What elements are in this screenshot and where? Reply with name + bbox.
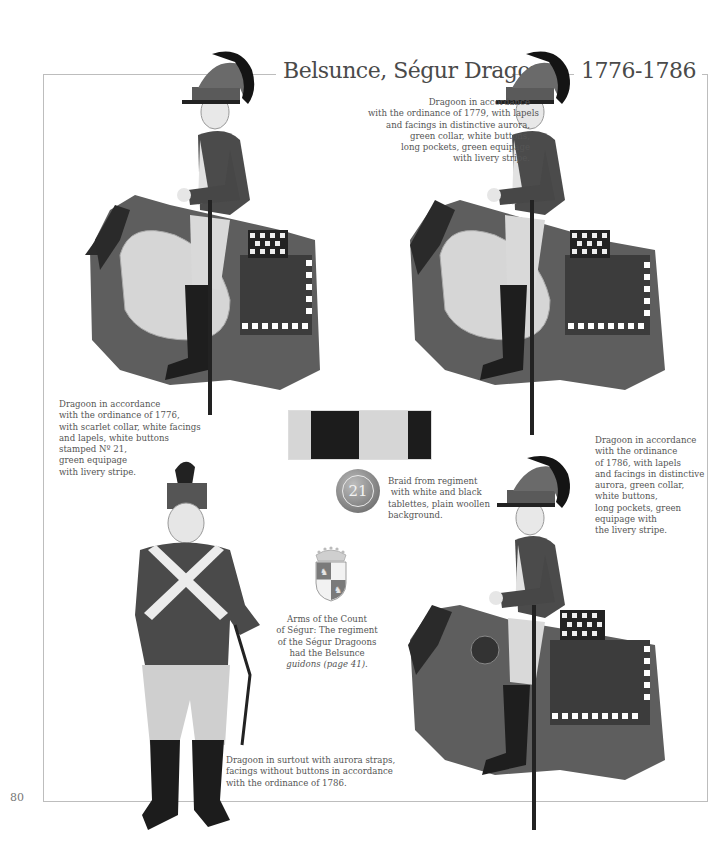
button-number: 21 <box>342 475 374 507</box>
mounted-dragoon-1776-illustration <box>80 40 320 440</box>
braid-segment-white <box>289 411 311 459</box>
braid-segment-black <box>408 411 431 459</box>
page-number: 80 <box>10 791 24 804</box>
caption-braid: Braid from regiment with white and black… <box>388 476 518 521</box>
svg-text:♞: ♞ <box>320 567 328 577</box>
braid-segment-white <box>359 411 408 459</box>
caption-dragoon-1786: Dragoon in accordance with the ordinance… <box>595 435 715 537</box>
regimental-braid-swatch <box>289 411 431 459</box>
braid-segment-black <box>311 411 359 459</box>
svg-text:♞: ♞ <box>334 585 342 595</box>
caption-dragoon-1779: Dragoon in accordance with the ordinance… <box>368 97 530 165</box>
caption-dragoon-1776: Dragoon in accordance with the ordinance… <box>59 399 229 478</box>
regimental-button-21: 21 <box>336 469 380 513</box>
caption-dragoon-surtout: Dragoon in surtout with aurora straps, f… <box>226 755 396 789</box>
caption-arms-of-segur: Arms of the Count of Ségur: The regiment… <box>262 614 392 670</box>
segur-coat-of-arms-icon: ♞ ♞ <box>310 545 352 603</box>
